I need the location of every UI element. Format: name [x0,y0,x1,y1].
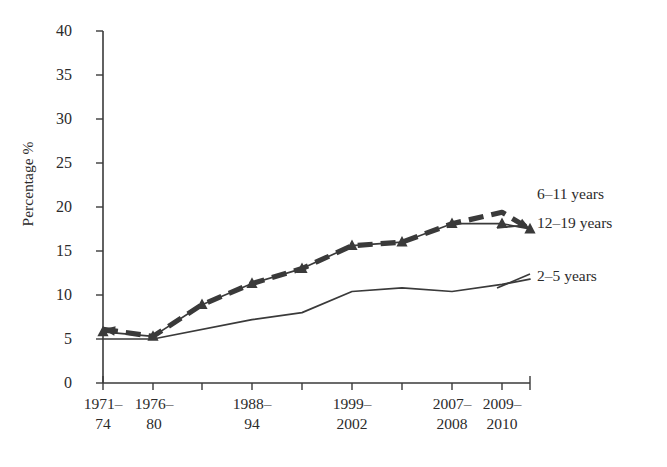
x-axis-tick-label-line1: 1971– [84,395,123,412]
chart-figure: Percentage % 40 35 30 25 20 15 10 5 0 [0,0,667,467]
x-axis-tick-label-line2: 2010 [469,414,535,434]
data-series-layer [97,212,535,340]
x-axis-tick-label: 1976– 80 [121,394,187,434]
legend-samples [497,225,530,288]
series-label-12-19-years: 12–19 years [537,214,612,232]
series-label-2-5-years: 2–5 years [537,267,597,285]
x-axis-tick-label-line1: 1976– [135,395,174,412]
x-axis-tick-label-line1: 1988– [233,395,272,412]
axes [96,31,530,390]
x-axis-tick-label: 1988– 94 [219,394,285,434]
series-line [103,212,530,336]
legend-sample-2-5-years [497,274,530,288]
x-axis-tick-label-line2: 94 [219,414,285,434]
series-2-5-years [103,279,530,339]
x-axis-tick-label-line1: 2009– [483,395,522,412]
x-axis-tick-label-line1: 1999– [333,395,372,412]
series-12-19-years [97,218,535,341]
x-axis-tick-label: 1999– 2002 [319,394,385,434]
series-line [103,279,530,339]
x-axis-tick-label-line1: 2007– [433,395,472,412]
x-axis-tick-label-line2: 80 [121,414,187,434]
x-axis-tick-label-line2: 2002 [319,414,385,434]
series-label-6-11-years: 6–11 years [537,185,604,203]
series-6-11-years [103,212,530,336]
series-line [103,224,530,337]
x-axis-tick-label: 2009– 2010 [469,394,535,434]
